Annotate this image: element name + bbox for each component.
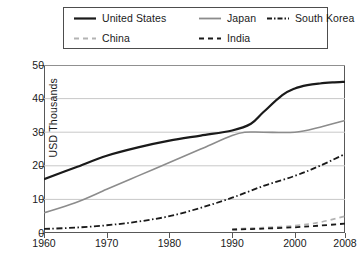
plot-area <box>44 65 345 233</box>
legend-item-south-korea: South Korea <box>267 8 354 29</box>
chart-root: United States Japan South Korea <box>0 0 360 275</box>
y-tick-label: 20 <box>18 160 44 171</box>
x-tick-label: 1980 <box>146 238 192 249</box>
legend-label-japan: Japan <box>227 13 256 24</box>
chart-legend: United States Japan South Korea <box>63 7 328 49</box>
legend-label-china: China <box>102 33 130 44</box>
x-tick-label: 2000 <box>272 238 318 249</box>
x-tick-label: 1970 <box>84 238 130 249</box>
legend-swatch-china <box>74 33 96 44</box>
x-tick-label: 1990 <box>209 238 255 249</box>
legend-item-china: China <box>74 28 130 49</box>
y-tick-label: 40 <box>18 93 44 104</box>
legend-item-india: India <box>199 28 250 49</box>
legend-swatch-japan <box>199 13 221 24</box>
legend-row-1: United States Japan South Korea <box>64 8 327 29</box>
legend-swatch-south-korea <box>267 13 289 24</box>
y-tick-label: 10 <box>18 194 44 205</box>
series-lines <box>44 82 345 230</box>
y-tick-label: 50 <box>18 60 44 71</box>
x-tick-label: 2008 <box>322 238 360 249</box>
legend-row-2: China India <box>64 28 327 49</box>
legend-swatch-india <box>199 33 221 44</box>
series-line-united-states <box>44 82 345 179</box>
legend-label-india: India <box>227 33 250 44</box>
legend-label-united-states: United States <box>102 13 166 24</box>
legend-label-south-korea: South Korea <box>295 13 354 24</box>
series-line-south-korea <box>44 154 345 229</box>
legend-item-united-states: United States <box>74 8 166 29</box>
y-axis-title: USD Thousands <box>47 78 59 157</box>
y-tick-label: 30 <box>18 127 44 138</box>
legend-swatch-united-states <box>74 13 96 24</box>
x-tick-label: 1960 <box>21 238 67 249</box>
legend-item-japan: Japan <box>199 8 256 29</box>
